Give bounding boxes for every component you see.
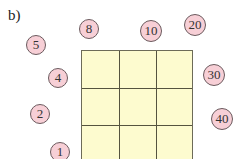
node-30: 30: [203, 64, 225, 86]
figure-label: b): [8, 7, 21, 24]
grid-line-v2: [156, 51, 157, 159]
node-2: 2: [30, 104, 50, 124]
node-10: 10: [140, 20, 162, 42]
grid-3x3: [81, 50, 193, 159]
node-20: 20: [184, 14, 206, 36]
node-5: 5: [26, 35, 46, 55]
grid-line-h1: [82, 88, 192, 89]
node-1: 1: [50, 142, 70, 159]
node-40: 40: [211, 108, 233, 130]
node-8: 8: [79, 19, 99, 39]
node-4: 4: [48, 68, 68, 88]
grid-line-h2: [82, 125, 192, 126]
grid-line-v1: [119, 51, 120, 159]
